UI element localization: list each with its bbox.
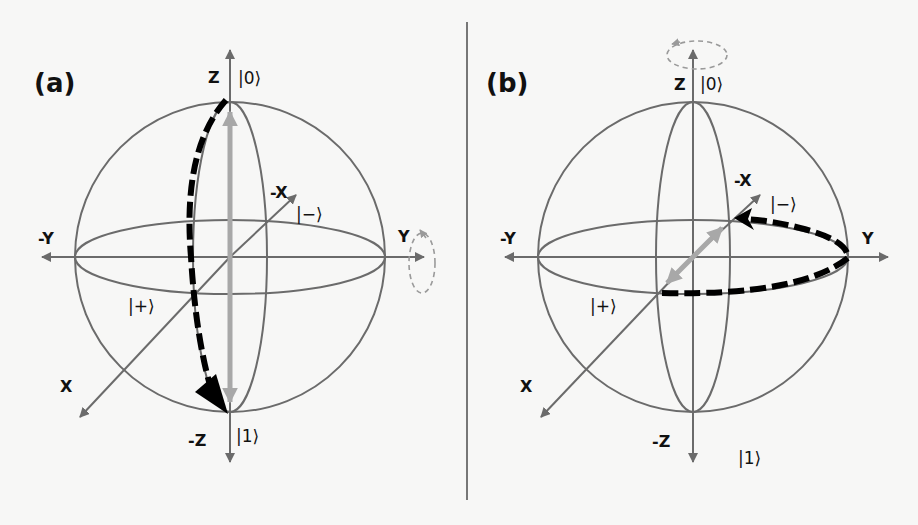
panel-a: (a) Z |0⟩ -Z |1⟩ — [34, 50, 435, 462]
rotation-path — [189, 100, 226, 392]
ket-one-label: |1⟩ — [236, 426, 259, 446]
ket-plus-label: |+⟩ — [128, 296, 155, 316]
ket-minus-label: |−⟩ — [770, 194, 797, 214]
panel-b: (b) Z |0⟩ -Z |1⟩ Y -Y X -X — [486, 41, 888, 468]
x-axis-label: X — [60, 377, 73, 396]
neg-y-axis-label: -Y — [38, 229, 54, 248]
rotation-hint-loop — [667, 41, 727, 69]
z-axis-label: Z — [674, 75, 686, 94]
panel-a-label: (a) — [34, 68, 75, 98]
ket-one-label: |1⟩ — [738, 448, 761, 468]
rotation-path-arrowhead — [195, 374, 228, 414]
panel-b-label: (b) — [486, 68, 528, 98]
state-vector-arrow — [667, 228, 722, 283]
neg-x-axis-label: -X — [270, 183, 288, 202]
bloch-sphere-figure: (a) Z |0⟩ -Z |1⟩ — [0, 0, 918, 525]
neg-x-axis-label: -X — [734, 171, 752, 190]
x-axis-label: X — [520, 377, 533, 396]
y-axis-label: Y — [397, 227, 410, 246]
y-axis-label: Y — [861, 229, 874, 248]
rotation-hint-arrow — [672, 42, 680, 44]
ket-plus-label: |+⟩ — [590, 296, 617, 316]
neg-z-axis-label: -Z — [188, 431, 206, 450]
neg-y-axis-label: -Y — [500, 229, 516, 248]
rotation-hint-loop — [409, 233, 435, 293]
z-axis-label: Z — [208, 68, 220, 87]
neg-x-axis — [230, 195, 296, 257]
neg-z-axis-label: -Z — [652, 432, 670, 451]
ket-zero-label: |0⟩ — [700, 74, 723, 94]
ket-minus-label: |−⟩ — [296, 204, 323, 224]
ket-zero-label: |0⟩ — [238, 68, 261, 88]
